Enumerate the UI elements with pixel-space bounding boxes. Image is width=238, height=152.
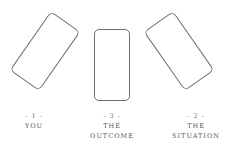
position-number: - 2 - xyxy=(156,111,236,121)
position-title: OUTCOME xyxy=(72,131,152,141)
label-position-3: - 3 - THE OUTCOME xyxy=(72,111,152,141)
position-number: - 3 - xyxy=(72,111,152,121)
position-number: - 1 - xyxy=(0,111,74,121)
card-position-2[interactable] xyxy=(144,11,215,91)
position-title: YOU xyxy=(0,121,74,131)
card-position-3[interactable] xyxy=(94,29,130,101)
position-title: SITUATION xyxy=(156,131,236,141)
label-position-2: - 2 - THE SITUATION xyxy=(156,111,236,141)
position-title: THE xyxy=(72,121,152,131)
label-position-1: - 1 - YOU xyxy=(0,111,74,131)
card-position-1[interactable] xyxy=(10,11,81,91)
position-title: THE xyxy=(156,121,236,131)
